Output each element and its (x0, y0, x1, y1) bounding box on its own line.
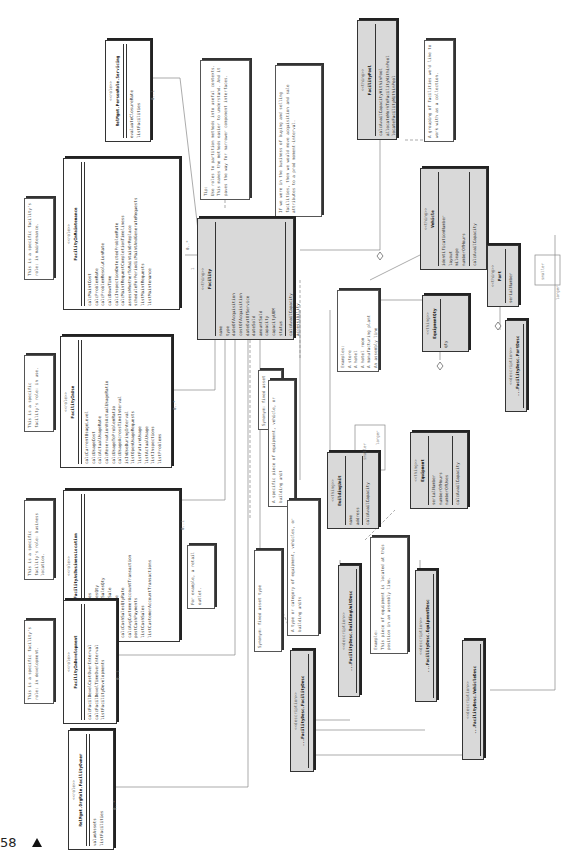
class-building-unit-desc[interactable]: <<description>> ...FacilityDesc.Building… (338, 565, 360, 697)
method: listCustomerAccountTransactions (147, 494, 154, 638)
method: calcAvailCapacity (288, 222, 295, 336)
class-building-unit[interactable]: <<thing>> BuildingUnit name address calc… (327, 452, 379, 529)
method: valueAssets (92, 734, 99, 846)
multiplicity-label: 0..* (112, 800, 117, 810)
method: listProblems (157, 340, 164, 464)
note-text: Examples: A store A hotel A hotel room A… (338, 291, 382, 371)
class-equipment-desc[interactable]: <<description>> ...FacilityDesc.Equipmen… (415, 570, 437, 702)
method: calcDownTime (107, 162, 114, 306)
multiplicity-label: 0..* (185, 240, 190, 250)
method: listCashSales (140, 494, 147, 638)
divider (89, 734, 90, 846)
class-facility-desc[interactable]: <<description>> ...FacilityDesc.Facility… (290, 650, 314, 772)
attribute: costOfAcquisition (238, 222, 245, 336)
class-facility-owner[interactable]: <<role>> RelMgmt.OrgRole.FacilityOwner v… (68, 730, 114, 850)
class-name: FacilityInMaintenance (73, 162, 83, 306)
note-text: For example, a retail outlet. (188, 546, 205, 608)
method: calcAvailCapacity (365, 456, 372, 525)
attribute: qty (443, 299, 450, 348)
method: calcProblemResolutionRate (100, 162, 107, 306)
method: calcAvgCustomerAccountTransaction (127, 494, 134, 638)
divider (452, 436, 453, 505)
stereotype: <<description>> (508, 324, 515, 408)
divider (84, 162, 85, 306)
note-biz-role: This is a specific facility's role: busi… (24, 500, 54, 580)
class-facility-in-development[interactable]: <<role>> FacilityInDevelopment calcFacil… (63, 600, 117, 724)
class-facility[interactable]: <<thing>> Facility name type dateOfAcqui… (197, 218, 294, 340)
stereotype: <<description>> (418, 574, 425, 698)
stereotype: <<thing>> (330, 456, 337, 525)
method: calcFacilDevelCostOverInterval (87, 604, 94, 720)
note-equip-example: Example: This piece of equipment is loca… (370, 537, 408, 654)
class-servicing[interactable]: <<role>> RelMgmt.PersonRole.Servicing ev… (105, 40, 151, 142)
method: calcAvailCapacityWithinPool (378, 24, 385, 136)
class-facility-pool[interactable]: <<thing>> FacilityPool calcAvailCapacity… (357, 20, 397, 140)
note-buying: If we were in the business of buying and… (275, 65, 322, 217)
multiplicity-label: 0..1 (115, 670, 120, 680)
attribute: status (278, 222, 285, 336)
method: calcUsageAcrossTimeInterval (117, 340, 124, 464)
class-equipment-qty[interactable]: <<thing>> EquipmentQty qty (422, 295, 469, 352)
method: listFacilities (136, 44, 143, 138)
class-facility-in-maintenance[interactable]: <<role>> FacilityInMaintenance calcMaint… (63, 158, 180, 310)
attribute: serialNumber (431, 436, 438, 505)
class-name: ...FacilityDesc.PartDesc (515, 324, 525, 408)
stereotype: <<role>> (108, 44, 115, 138)
triangle-up-icon (32, 838, 42, 847)
note-pool: A grouping of facilities we'd like to wo… (424, 40, 454, 142)
method: listFacilityDevelopments (100, 604, 107, 720)
method: listMaintenance (147, 162, 154, 306)
method: calcReservationVsActualUsageRatio (104, 340, 111, 464)
divider (81, 340, 82, 464)
class-name: ...FacilityDesc.VehicleDesc (472, 644, 482, 756)
attribute: capacity (264, 222, 271, 336)
class-vehicle-desc[interactable]: <<description>> ...FacilityDesc.VehicleD… (462, 640, 484, 760)
attribute: numberOfHours (461, 172, 468, 266)
method: listFutureUsage (137, 340, 144, 464)
class-name: FacilityInDevelopment (73, 604, 83, 720)
class-facility-in-use[interactable]: <<role>> FacilityInUse calcCurrentUsageL… (60, 336, 172, 468)
class-part-desc[interactable]: <<description>> ...FacilityDesc.PartDesc (505, 320, 527, 412)
attribute: name (348, 456, 355, 525)
attribute: dateOfAcquisition (231, 222, 238, 336)
stereotype: <<thing>> (200, 222, 207, 336)
multiplicity-label: 0..1 (180, 520, 185, 530)
class-part[interactable]: <<thing>> Part serialNumber (487, 245, 519, 307)
note-text: A grouping of facilities we'd like to wo… (425, 41, 442, 141)
method: locateFacilityWithinPool (391, 24, 398, 136)
stereotype: <<role>> (66, 162, 73, 306)
class-equipment[interactable]: <<thing>> Equipment serialNumber numberO… (410, 432, 468, 509)
method: calcMaintRequestCompletionTimeliness (120, 162, 127, 306)
note-dev-role: This is a specific facility's role: in d… (24, 620, 54, 704)
stereotype: <<thing>> (423, 172, 430, 266)
stereotype: <<thing>> (425, 299, 432, 348)
stereotype: <<thing>> (360, 24, 367, 136)
method: listActualUsage (144, 340, 151, 464)
note-specific-piece: A specific piece of equipment, vehicle, … (268, 380, 295, 507)
class-name: EquipmentQty (432, 299, 442, 348)
divider (362, 456, 363, 525)
attribute: serialNumber (508, 249, 515, 303)
stereotype: <<description>> (341, 569, 348, 693)
multiplicity-label: 0..1 (150, 90, 155, 100)
note-text: Tip: Use roles to partition methods into… (201, 61, 231, 199)
note-text: Synonym: fixed asset type (255, 551, 266, 651)
note-examples: Examples: A store A hotel A hotel room A… (337, 290, 379, 372)
note-text: This is a specific facility's role: in d… (25, 621, 42, 703)
class-name: FacilityPool (367, 24, 377, 136)
attribute: amountSold (258, 222, 265, 336)
attribute: numberOfHours (438, 436, 445, 505)
method: scheduleForPeriodicMaintAndGenerateReque… (133, 162, 140, 306)
note-text: A specific piece of equipment, vehicle, … (269, 381, 286, 506)
method: calcCashSalesQtyRate (120, 494, 127, 638)
method: calcActualUsageRate (97, 340, 104, 464)
method: listFacilities (99, 734, 106, 846)
note-use-role: This is a specific facility's role: in u… (24, 355, 54, 432)
divider (469, 172, 470, 266)
method: calcMaintCost (87, 162, 94, 306)
attribute: dateOutOfService (245, 222, 252, 336)
class-name: Vehicle (430, 172, 440, 266)
class-name: Facility (207, 222, 217, 336)
class-vehicle[interactable]: <<thing>> Vehicle identificationNumber l… (420, 168, 487, 270)
note-tip: Tip: Use roles to partition methods into… (200, 60, 250, 200)
